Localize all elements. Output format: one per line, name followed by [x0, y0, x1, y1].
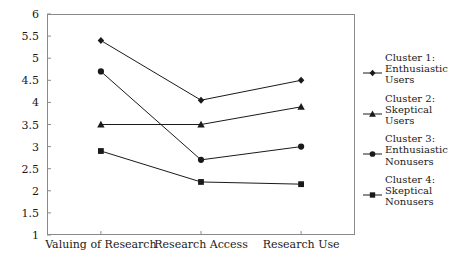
- y-axis-tick-label: 3.5: [0, 119, 39, 130]
- x-axis-tick-label: Research Access: [154, 239, 248, 251]
- y-axis-tick-label: 1: [0, 230, 39, 241]
- x-axis: Valuing of ResearchResearch AccessResear…: [47, 239, 355, 259]
- legend-label-line: Nonusers: [385, 196, 461, 207]
- legend-label-line: Cluster 2:: [385, 93, 461, 104]
- square-marker: [370, 192, 375, 197]
- x-axis-tick-label: Research Use: [263, 239, 340, 251]
- circle-marker: [370, 151, 376, 157]
- legend-label-line: Cluster 4:: [385, 174, 461, 185]
- line-chart-figure: 11.522.533.544.555.56 Valuing of Researc…: [0, 0, 461, 271]
- y-axis-tick-label: 4: [0, 97, 39, 108]
- series-group: [98, 37, 305, 104]
- series-group: [98, 148, 304, 187]
- y-axis-tick-label: 6: [0, 9, 39, 20]
- square-marker: [298, 181, 304, 187]
- series-line: [101, 41, 301, 101]
- series-line: [101, 71, 301, 159]
- legend-marker-sample: [362, 144, 383, 154]
- legend-marker-sample: [362, 63, 383, 73]
- y-axis-tick-label: 5: [0, 53, 39, 64]
- legend-marker-sample: [362, 104, 383, 114]
- legend-entry[interactable]: Cluster 3:EnthusiasticNonusers: [362, 133, 461, 167]
- y-axis-tick-label: 2.5: [0, 163, 39, 174]
- y-axis-tick-label: 1.5: [0, 207, 39, 218]
- legend-marker-sample: [362, 185, 383, 195]
- x-axis-tick-label: Valuing of Research: [45, 239, 156, 251]
- legend-entry[interactable]: Cluster 2:SkepticalUsers: [362, 93, 461, 127]
- legend-label-line: Nonusers: [385, 156, 461, 167]
- legend-label-line: Enthusiastic: [385, 144, 461, 155]
- diamond-marker: [370, 70, 376, 76]
- legend-label-line: Enthusiastic: [385, 63, 461, 74]
- legend-label-line: Cluster 1:: [385, 52, 461, 63]
- diamond-marker: [98, 37, 104, 44]
- series-group: [97, 103, 305, 127]
- square-marker: [198, 179, 204, 185]
- circle-marker: [98, 68, 104, 74]
- circle-marker: [198, 157, 204, 163]
- series-group: [98, 68, 304, 163]
- y-axis-tick-label: 3: [0, 141, 39, 152]
- legend-label-line: Skeptical: [385, 104, 461, 115]
- legend-entry[interactable]: Cluster 4:SkepticalNonusers: [362, 174, 461, 208]
- y-axis-tick-label: 4.5: [0, 75, 39, 86]
- legend-label-line: Users: [385, 115, 461, 126]
- triangle-marker: [297, 103, 304, 110]
- y-axis-tick-label: 5.5: [0, 31, 39, 42]
- legend-label-line: Cluster 3:: [385, 133, 461, 144]
- square-marker: [98, 148, 104, 154]
- diamond-marker: [298, 77, 304, 84]
- chart-legend: Cluster 1:EnthusiasticUsersCluster 2:Ske…: [362, 52, 461, 214]
- circle-marker: [298, 144, 304, 150]
- y-axis: 11.522.533.544.555.56: [0, 0, 43, 271]
- y-axis-tick-label: 2: [0, 185, 39, 196]
- legend-label-line: Users: [385, 74, 461, 85]
- legend-label-line: Skeptical: [385, 185, 461, 196]
- legend-entry[interactable]: Cluster 1:EnthusiasticUsers: [362, 52, 461, 86]
- diamond-marker: [198, 97, 204, 104]
